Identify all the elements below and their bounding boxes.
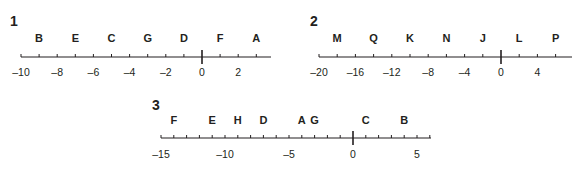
point-label-a: A (298, 114, 306, 126)
point-label-c: C (362, 114, 370, 126)
point-label-f: F (170, 114, 177, 126)
point-label-e: E (209, 114, 216, 126)
tick-label: –5 (283, 148, 295, 160)
tick-label: 5 (414, 148, 420, 160)
tick-label: –10 (216, 148, 234, 160)
point-label-h: H (234, 114, 242, 126)
point-label-g: G (310, 114, 319, 126)
tick-label: 0 (350, 148, 356, 160)
number-line-3: –15–10–505FEHDAGCB (0, 0, 584, 171)
tick-label: –15 (152, 148, 170, 160)
point-label-d: D (259, 114, 267, 126)
point-label-b: B (400, 114, 408, 126)
number-line-panel-3: 3 –15–10–505FEHDAGCB (0, 0, 584, 171)
